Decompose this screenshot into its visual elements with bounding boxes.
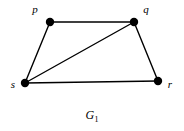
graph-edge-q-r bbox=[134, 22, 158, 81]
vertex-label-s: s bbox=[11, 79, 15, 90]
node-layer bbox=[21, 18, 162, 87]
vertex-label-q: q bbox=[143, 4, 149, 15]
graph-edge-s-q bbox=[25, 22, 134, 83]
caption-subscript: 1 bbox=[95, 116, 99, 125]
graph-vertex-q bbox=[130, 18, 138, 26]
graph-figure: pqsr G1 bbox=[0, 0, 184, 131]
graph-vertex-r bbox=[154, 77, 162, 85]
vertex-label-p: p bbox=[32, 4, 38, 15]
vertex-label-r: r bbox=[168, 79, 172, 90]
graph-edge-s-r bbox=[25, 81, 158, 83]
graph-edge-p-s bbox=[25, 22, 50, 83]
edge-layer bbox=[25, 22, 158, 83]
graph-vertex-s bbox=[21, 79, 29, 87]
graph-vertex-p bbox=[46, 18, 54, 26]
figure-caption: G1 bbox=[85, 109, 98, 124]
caption-symbol: G bbox=[85, 108, 94, 122]
